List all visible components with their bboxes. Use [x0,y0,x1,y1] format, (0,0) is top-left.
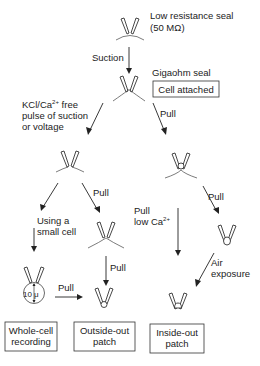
patch-clamp-diagram: Low resistance seal (50 MΩ) Suction Giga… [0,0,260,366]
small-cell-arrow [40,183,58,211]
suction-label: Suction [92,52,124,63]
pull-whole-label: Pull [58,282,74,293]
svg-text:Inside-out: Inside-out [156,327,198,338]
whole-cell-box: Whole-cell recording [5,322,57,351]
pull-low-ca-label-line1: Pull [134,205,150,216]
gigaohm-seal-pipette-icon [113,76,145,101]
cell-attached-box: Cell attached [153,81,219,97]
vesicle-forming-pipette-icon [165,153,197,178]
low-resistance-label: Low resistance seal [150,10,233,21]
low-resistance-pipette-icon [116,18,144,40]
svg-text:Outside-out: Outside-out [80,325,129,336]
kcl-label-line2: pulse of suction [22,110,88,121]
air-exposure-label-line2: exposure [211,268,250,279]
ruptured-patch-pipette-icon [56,151,84,172]
outside-out-box: Outside-out patch [74,322,135,351]
small-cell-label-line2: small cell [37,226,76,237]
kcl-arrow [86,103,103,135]
diagram-canvas: Low resistance seal (50 MΩ) Suction Giga… [0,0,260,366]
air-exposure-label-line1: Air [211,257,223,268]
svg-text:Whole-cell: Whole-cell [9,325,53,336]
small-cell-label-line1: Using a [37,215,70,226]
pull-low-ca-arrow [175,208,181,256]
svg-text:patch: patch [93,336,116,347]
pull-whole-arrow [55,294,83,300]
kcl-label-line3: or voltage [22,121,64,132]
pull-outside-arrow [103,256,109,286]
gigaohm-label: Gigaohm seal [152,67,211,78]
pull-low-ca-label-line2: low Ca2+ [134,216,170,227]
suction-arrow [126,47,132,74]
pull-mid-label: Pull [93,187,109,198]
vesicle-pipette-icon [218,225,236,245]
outside-out-forming-pipette-icon [88,222,124,248]
low-resistance-value: (50 MΩ) [150,22,185,33]
pull-outside-label: Pull [110,262,126,273]
pull-right-label: Pull [160,108,176,119]
inside-out-box: Inside-out patch [150,324,204,353]
svg-text:patch: patch [165,338,188,349]
cell-size-label: 10 μ [23,290,39,299]
pull-vesicle-label: Pull [208,191,224,202]
inside-out-pipette-icon [169,293,187,309]
outside-out-pipette-icon [95,288,113,308]
svg-text:recording: recording [11,336,51,347]
svg-text:Cell attached: Cell attached [158,84,213,95]
kcl-label-line1: KCl/Ca2+ free [22,99,78,110]
